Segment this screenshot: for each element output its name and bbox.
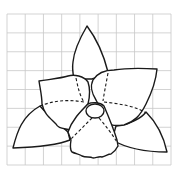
column: [86, 104, 104, 118]
top-sepal: [73, 26, 108, 79]
orchid-grid-drawing: [0, 0, 177, 177]
